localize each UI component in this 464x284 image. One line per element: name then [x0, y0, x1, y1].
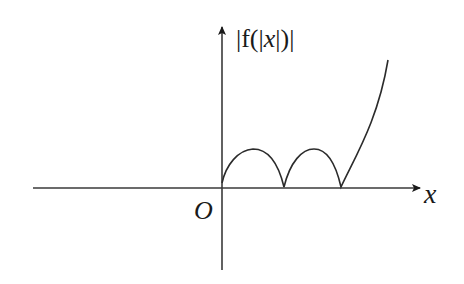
origin-label: O — [194, 196, 213, 225]
y-axis-label: |f(|x|)| — [236, 24, 294, 53]
x-axis-label: x — [423, 178, 437, 209]
function-graph: |f(|x|)| x O — [0, 0, 464, 284]
function-curve — [222, 60, 388, 187]
